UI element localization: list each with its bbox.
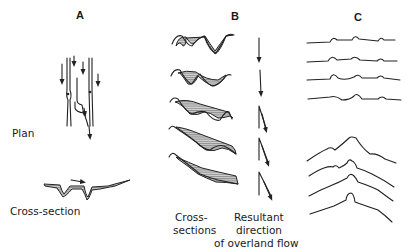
direction-label-line3: of overland flow (214, 237, 299, 249)
direction-arrow-icon (262, 114, 266, 130)
panel-a-letter: A (76, 9, 84, 21)
flow-arrow-icon (71, 180, 83, 182)
cross-section-label: Cross-section (10, 205, 80, 217)
panel-b-letter: B (231, 10, 239, 22)
plan-label: Plan (12, 127, 34, 139)
panel-b-direction-arrows (259, 38, 271, 198)
direction-arrow-icon (262, 146, 268, 164)
cross-sections-label-line2: sections (173, 224, 216, 236)
panel-c-letter: C (354, 11, 362, 23)
flow-arrow-icon (89, 126, 90, 137)
panel-c-upper-profiles (307, 37, 401, 100)
panel-c-lower-profiles (307, 137, 396, 222)
direction-label-line2: direction (236, 224, 282, 236)
panel-a-plan-drawing (62, 56, 98, 137)
direction-label-line1: Resultant (234, 211, 284, 223)
cross-sections-label-line1: Cross- (175, 211, 208, 223)
panel-b-cross-sections (169, 34, 238, 184)
direction-arrow-icon (260, 70, 261, 94)
panel-a-cross-section-drawing (44, 180, 130, 200)
direction-arrow-icon (264, 182, 271, 198)
